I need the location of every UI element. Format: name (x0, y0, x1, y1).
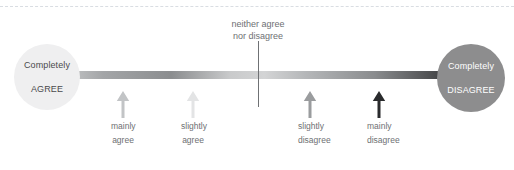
up-arrow-icon (367, 90, 391, 118)
endpoint-agree-line2: AGREE (31, 85, 63, 94)
agree-disagree-gradient-bar (44, 71, 468, 79)
up-arrow-icon (298, 90, 322, 118)
midpoint-caption-line1: neither agree (198, 18, 318, 30)
endpoint-agree-line1: Completely (24, 61, 70, 70)
marker-mainly-agree-line1: mainly (111, 121, 135, 132)
midpoint-tick-line (258, 41, 259, 107)
endpoint-disagree-line2: DISAGREE (447, 86, 494, 95)
midpoint-caption: neither agree nor disagree (198, 18, 318, 42)
marker-mainly-disagree: mainly disagree (367, 90, 391, 146)
marker-mainly-disagree-line2: disagree (367, 135, 391, 146)
endpoint-completely-disagree: Completely DISAGREE (437, 44, 505, 112)
dashed-separator-line (0, 6, 514, 7)
marker-slightly-agree: slightly agree (181, 90, 205, 146)
marker-mainly-agree-line2: agree (111, 135, 135, 146)
endpoint-completely-agree: Completely AGREE (14, 44, 80, 110)
marker-slightly-agree-line1: slightly (181, 121, 205, 132)
up-arrow-icon (181, 90, 205, 118)
marker-slightly-disagree: slightly disagree (298, 90, 322, 146)
agreement-scale-diagram: Completely AGREE Completely DISAGREE nei… (0, 0, 514, 170)
marker-mainly-disagree-line1: mainly (367, 121, 391, 132)
marker-slightly-disagree-line2: disagree (298, 135, 322, 146)
endpoint-disagree-line1: Completely (448, 62, 494, 71)
marker-slightly-agree-line2: agree (181, 135, 205, 146)
up-arrow-icon (111, 90, 135, 118)
marker-mainly-agree: mainly agree (111, 90, 135, 146)
marker-slightly-disagree-line1: slightly (298, 121, 322, 132)
